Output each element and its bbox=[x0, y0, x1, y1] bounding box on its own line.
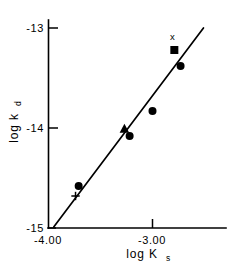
x-axis-title-subscript: s bbox=[166, 253, 170, 262]
scatter-plot: -13 -14 -15 -4.00 -3.00 log k d log K s … bbox=[0, 0, 238, 262]
data-point-square bbox=[170, 46, 178, 54]
x-axis-title-main: log K bbox=[126, 247, 157, 261]
figure-root: -13 -14 -15 -4.00 -3.00 log k d log K s … bbox=[0, 0, 238, 262]
point-annotation-x: x bbox=[170, 31, 175, 42]
y-axis-title-subscript: d bbox=[13, 101, 23, 106]
y-axis-title-main: log k bbox=[7, 113, 21, 143]
y-tick-label-minus14: -14 bbox=[26, 122, 44, 134]
annotations-layer: x bbox=[170, 31, 175, 42]
data-point-circle bbox=[149, 107, 157, 115]
data-point-circle bbox=[75, 182, 83, 190]
y-tick-label-minus13: -13 bbox=[26, 22, 44, 34]
data-point-circle bbox=[177, 62, 185, 70]
y-axis-title: log k d bbox=[7, 101, 23, 143]
x-tick-label-minus3: -3.00 bbox=[138, 234, 166, 246]
data-markers-layer bbox=[71, 46, 184, 200]
y-tick-label-minus15: -15 bbox=[26, 222, 44, 234]
x-tick-label-minus4: -4.00 bbox=[34, 234, 62, 246]
x-axis-title: log K s bbox=[126, 247, 170, 262]
data-point-circle bbox=[126, 132, 134, 140]
